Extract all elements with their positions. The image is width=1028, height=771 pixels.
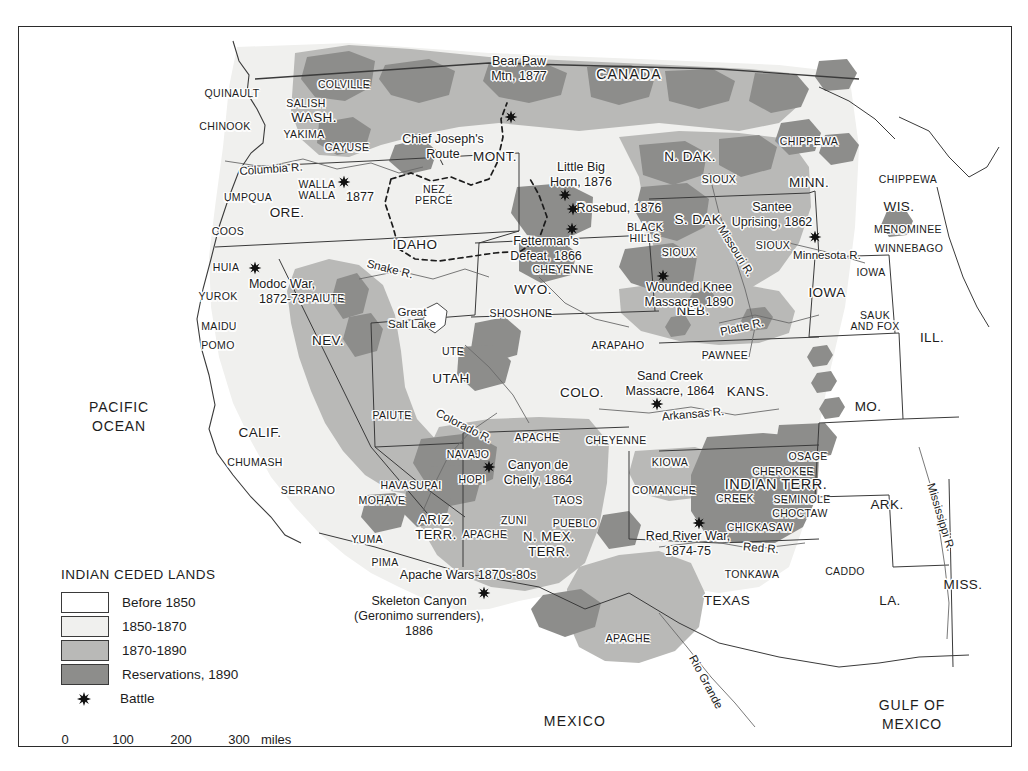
scale-unit-label: miles xyxy=(261,732,291,747)
tribe-label-52: ZUNI xyxy=(501,515,527,526)
legend-item-3: Reservations, 1890 xyxy=(61,663,291,686)
ocean-label-1: GULF OFMEXICO xyxy=(879,696,945,734)
territory-label-1: N. MEX.TERR. xyxy=(523,530,575,560)
country-label-1: MEXICO xyxy=(544,714,606,729)
battle-label-4: Wounded KneeMassacre, 1890 xyxy=(645,280,734,310)
battle-label-2: Rosebud, 1876 xyxy=(577,201,662,216)
legend-battle-star-icon xyxy=(61,689,107,708)
scale-tick-label-2: 200 xyxy=(170,732,192,747)
tribe-label-49: PIMA xyxy=(371,557,398,568)
territory-label-2: INDIAN TERR. xyxy=(725,477,827,493)
tribe-label-6: WALLAWALLA xyxy=(299,179,336,202)
state-label-9: ILL. xyxy=(920,331,944,346)
country-label-0: CANADA xyxy=(596,67,662,82)
map-frame: CANADAMEXICOPACIFICOCEANGULF OFMEXICOWAS… xyxy=(18,26,1012,747)
battle-star-9 xyxy=(693,517,706,530)
battle-star-12 xyxy=(338,176,351,189)
legend-swatch-0 xyxy=(61,592,109,613)
battle-label-6: Modoc War,1872-73 xyxy=(249,277,315,307)
state-label-8: IOWA xyxy=(808,286,845,301)
battle-label-8: Canyon deChelly, 1864 xyxy=(504,458,573,488)
battle-star-7 xyxy=(651,398,664,411)
tribe-label-32: IOWA xyxy=(856,267,885,278)
tribe-label-34: KIOWA xyxy=(652,457,688,468)
tribe-label-17: PAIUTE xyxy=(372,410,411,421)
tribe-label-35: COMANCHE xyxy=(632,485,696,496)
battle-star-2 xyxy=(567,203,580,216)
tribe-label-40: CHOCTAW xyxy=(772,508,828,519)
state-label-12: WYO. xyxy=(514,283,552,298)
battle-label-11: Skeleton Canyon(Geronimo surrenders),188… xyxy=(354,594,484,638)
top-cropped-text xyxy=(0,0,1028,14)
tribe-label-36: OSAGE xyxy=(788,451,827,462)
tribe-label-33: SAUKAND FOX xyxy=(850,310,899,333)
tribe-label-27: PAWNEE xyxy=(702,350,748,361)
tribe-label-48: YUMA xyxy=(351,534,383,545)
river-label-3: Minnesota R. xyxy=(793,249,861,261)
tribe-label-25: CHEYENNE xyxy=(585,435,646,446)
tribe-label-30: MENOMINEE xyxy=(874,224,942,235)
state-label-13: NEV. xyxy=(312,334,344,349)
legend-label-2: 1870-1890 xyxy=(122,643,187,658)
tribe-label-4: COLVILLE xyxy=(318,79,370,90)
tribe-label-43: TONKAWA xyxy=(725,569,780,580)
tribe-label-8: COOS xyxy=(212,226,244,237)
battle-label-0: Bear PawMtn, 1877 xyxy=(491,54,547,84)
state-label-19: MISS. xyxy=(944,578,983,593)
route-label-0: Chief Joseph'sRoute xyxy=(402,132,484,162)
legend-label-4: Battle xyxy=(120,691,155,706)
tribe-label-0: QUINAULT xyxy=(204,88,259,99)
tribe-label-19: UTE xyxy=(442,346,464,357)
battle-label-9: Red River War,1874-75 xyxy=(646,529,730,559)
battle-label-7: Sand CreekMassacre, 1864 xyxy=(626,369,715,399)
tribe-label-50: APACHE xyxy=(515,432,560,443)
tribe-label-46: HAVASUPAI xyxy=(381,480,442,491)
tribe-label-13: CHUMASH xyxy=(227,457,283,468)
legend-item-0: Before 1850 xyxy=(61,591,291,614)
battle-star-11 xyxy=(478,587,491,600)
tribe-label-23: BLACKHILLS xyxy=(627,222,663,245)
tribe-label-31: WINNEBAGO xyxy=(875,243,944,254)
tribe-label-18: SHOSHONE xyxy=(490,308,553,319)
tribe-label-21: SIOUX xyxy=(662,247,696,258)
battle-label-3: Fetterman'sDefeat, 1866 xyxy=(510,234,582,264)
ocean-label-0: PACIFICOCEAN xyxy=(89,398,149,436)
state-label-21: TEXAS xyxy=(704,594,750,609)
state-label-18: ARK. xyxy=(870,498,903,513)
scale-tick-label-1: 100 xyxy=(112,732,134,747)
state-label-14: UTAH xyxy=(432,372,469,387)
battle-star-3 xyxy=(566,223,579,236)
battle-star-0 xyxy=(505,111,518,124)
tribe-label-42: CADDO xyxy=(825,566,865,577)
legend-label-0: Before 1850 xyxy=(122,595,196,610)
map-page: CANADAMEXICOPACIFICOCEANGULF OFMEXICOWAS… xyxy=(0,0,1028,771)
legend-item-4: Battle xyxy=(61,687,291,710)
battle-star-4 xyxy=(657,270,670,283)
legend-rows: Before 18501850-18701870-1890Reservation… xyxy=(61,591,291,710)
scale-bar: 0100200300miles xyxy=(63,732,303,747)
legend-item-1: 1850-1870 xyxy=(61,615,291,638)
state-label-7: WIS. xyxy=(884,200,915,215)
legend-label-1: 1850-1870 xyxy=(122,619,187,634)
state-label-17: CALIF. xyxy=(239,426,282,441)
map-legend: INDIAN CEDED LANDS Before 18501850-18701… xyxy=(61,567,291,711)
battle-star-8 xyxy=(483,461,496,474)
tribe-label-15: NEZPERCÉ xyxy=(415,184,453,207)
battle-label-10: Apache Wars 1870s-80s xyxy=(400,568,536,583)
tribe-label-26: ARAPAHO xyxy=(591,340,644,351)
state-label-15: COLO. xyxy=(560,386,604,401)
tribe-label-20: SIOUX xyxy=(702,174,736,185)
tribe-label-29: CHIPPEWA xyxy=(879,174,937,185)
tribe-label-39: SEMINOLE xyxy=(773,494,830,505)
state-label-1: ORE. xyxy=(270,206,305,221)
tribe-label-24: CHEYENNE xyxy=(532,264,593,275)
tribe-label-12: POMO xyxy=(201,340,235,351)
battle-star-6 xyxy=(249,262,262,275)
scale-numbers: 0100200300miles xyxy=(63,732,303,747)
tribe-label-3: YAKIMA xyxy=(284,129,325,140)
state-label-5: S. DAK. xyxy=(675,213,726,228)
tribe-label-10: YUROK xyxy=(198,291,237,302)
tribe-label-14: SERRANO xyxy=(281,485,335,496)
tribe-label-53: PUEBLO xyxy=(553,518,598,529)
legend-swatch-3 xyxy=(61,664,109,685)
